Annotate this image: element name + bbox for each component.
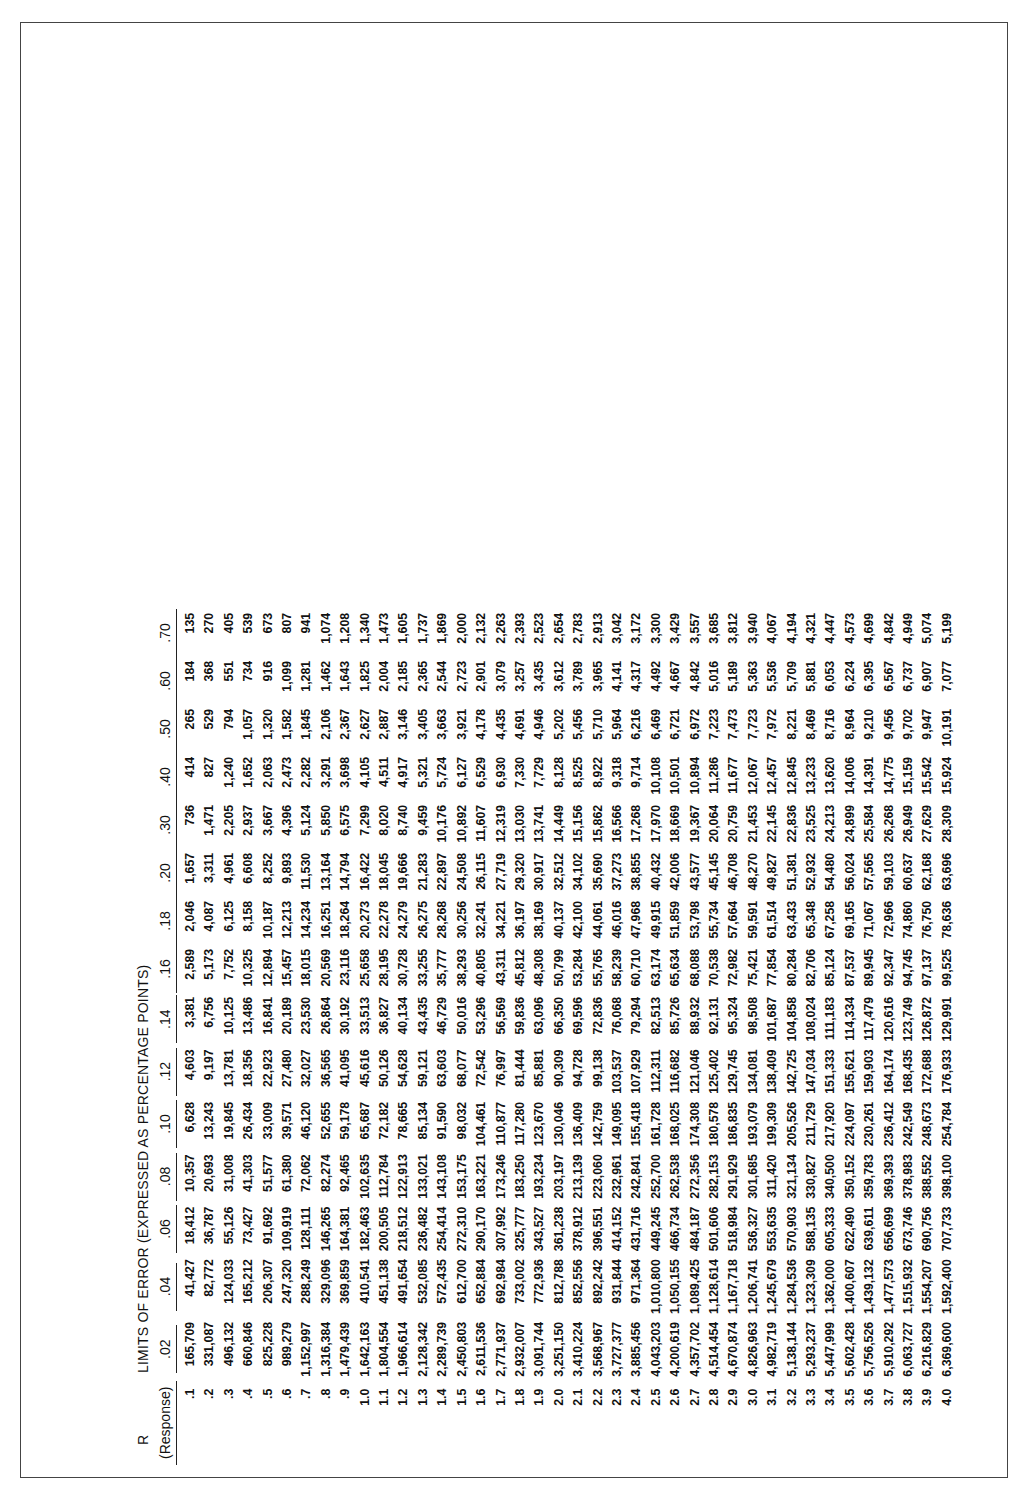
cell-value: 14,794: [336, 849, 355, 897]
cell-value: 2,393: [511, 609, 530, 657]
cell-value: 3,965: [589, 657, 608, 705]
cell-value: 26,268: [880, 801, 899, 849]
cell-value: 74,860: [899, 897, 918, 945]
cell-value: 18,669: [666, 801, 685, 849]
cell-value: 6,721: [666, 705, 685, 753]
column-header: .04: [155, 1255, 181, 1318]
cell-value: 6,395: [860, 657, 879, 705]
cell-value: 1,592,400: [938, 1255, 957, 1318]
cell-value: 340,500: [821, 1150, 840, 1202]
cell-value: 193,079: [744, 1098, 763, 1150]
cell-value: 213,139: [569, 1150, 588, 1202]
cell-value: 1,845: [297, 705, 316, 753]
cell-value: 4,603: [181, 1045, 200, 1097]
cell-value: 36,565: [317, 1045, 336, 1097]
cell-value: 673,746: [899, 1203, 918, 1255]
cell-value: 218,512: [394, 1203, 413, 1255]
cell-value: 2,901: [472, 657, 491, 705]
cell-value: 12,319: [492, 801, 511, 849]
cell-value: 20,759: [724, 801, 743, 849]
cell-value: 143,108: [433, 1150, 452, 1202]
cell-value: 5,964: [608, 705, 627, 753]
cell-value: 2,771,937: [492, 1318, 511, 1381]
cell-value: 2,627: [356, 705, 375, 753]
cell-value: 4,949: [899, 609, 918, 657]
cell-value: 11,286: [705, 753, 724, 801]
cell-value: 17,268: [627, 801, 646, 849]
response-value: 3.1: [763, 1381, 782, 1465]
table-row: 3.25,138,1441,284,536570,903321,134205,5…: [783, 609, 802, 1465]
cell-value: 71,067: [860, 897, 879, 945]
table-row: 1.52,450,803612,700272,310153,17598,0326…: [453, 609, 472, 1465]
cell-value: 359,783: [860, 1150, 879, 1202]
cell-value: 149,095: [608, 1098, 627, 1150]
cell-value: 3,685: [705, 609, 724, 657]
cell-value: 34,102: [569, 849, 588, 897]
cell-value: 369,393: [880, 1150, 899, 1202]
column-header: .70: [155, 609, 181, 657]
table-row: .1165,70941,42718,41210,3576,6284,6033,3…: [181, 609, 200, 1465]
table-row: .71,152,997288,249128,11172,06246,12032,…: [297, 609, 316, 1465]
row-header: (Response): [155, 1381, 181, 1465]
cell-value: 1,284,536: [783, 1255, 802, 1318]
cell-value: 3,410,224: [569, 1318, 588, 1381]
cell-value: 102,635: [356, 1150, 375, 1202]
cell-value: 12,067: [744, 753, 763, 801]
cell-value: 2,263: [492, 609, 511, 657]
cell-value: 47,968: [627, 897, 646, 945]
cell-value: 5,189: [724, 657, 743, 705]
cell-value: 794: [220, 705, 239, 753]
cell-value: 3,300: [647, 609, 666, 657]
cell-value: 3,663: [433, 705, 452, 753]
table-row: 2.13,410,224852,556378,912213,139136,409…: [569, 609, 588, 1465]
cell-value: 2,783: [569, 609, 588, 657]
cell-value: 262,538: [666, 1150, 685, 1202]
cell-value: 9,210: [860, 705, 879, 753]
column-header-label: .14: [157, 995, 177, 1043]
cell-value: 32,512: [550, 849, 569, 897]
cell-value: 8,716: [821, 705, 840, 753]
cell-value: 203,197: [550, 1150, 569, 1202]
cell-value: 183,250: [511, 1150, 530, 1202]
cell-value: 11,530: [297, 849, 316, 897]
cell-value: 5,602,428: [841, 1318, 860, 1381]
cell-value: 42,006: [666, 849, 685, 897]
cell-value: 1,057: [239, 705, 258, 753]
cell-value: 254,414: [433, 1203, 452, 1255]
cell-value: 107,929: [627, 1045, 646, 1097]
rotated-table-container: RLIMITS OF ERROR (EXPRESSED AS PERCENTAG…: [135, 55, 985, 1465]
cell-value: 3,612: [550, 657, 569, 705]
cell-value: 3,698: [336, 753, 355, 801]
cell-value: 97,137: [918, 945, 937, 993]
cell-value: 35,690: [589, 849, 608, 897]
cell-value: 24,899: [841, 801, 860, 849]
cell-value: 22,923: [259, 1045, 278, 1097]
table-row: .3496,132124,03355,12631,00819,84513,781…: [220, 609, 239, 1465]
column-header-label: .60: [157, 657, 177, 705]
cell-value: 87,537: [841, 945, 860, 993]
cell-value: 2,367: [336, 705, 355, 753]
column-header-label: .40: [157, 753, 177, 801]
cell-value: 23,525: [802, 801, 821, 849]
cell-value: 252,700: [647, 1150, 666, 1202]
cell-value: 65,687: [356, 1098, 375, 1150]
cell-value: 19,367: [686, 801, 705, 849]
cell-value: 53,296: [472, 993, 491, 1045]
cell-value: 109,919: [278, 1203, 297, 1255]
table-row: .6989,279247,320109,91961,38039,57127,48…: [278, 609, 297, 1465]
cell-value: 1,515,932: [899, 1255, 918, 1318]
cell-value: 4,573: [841, 609, 860, 657]
cell-value: 22,278: [375, 897, 394, 945]
cell-value: 2,913: [589, 609, 608, 657]
cell-value: 16,422: [356, 849, 375, 897]
table-row: 1.42,289,739572,435254,414143,10891,5906…: [433, 609, 452, 1465]
cell-value: 15,542: [918, 753, 937, 801]
cell-value: 1,479,439: [336, 1318, 355, 1381]
cell-value: 211,729: [802, 1098, 821, 1150]
response-value: 3.7: [880, 1381, 899, 1465]
column-header-label: .18: [157, 897, 177, 945]
cell-value: 43,311: [492, 945, 511, 993]
cell-value: 25,658: [356, 945, 375, 993]
cell-value: 325,777: [511, 1203, 530, 1255]
cell-value: 56,569: [492, 993, 511, 1045]
